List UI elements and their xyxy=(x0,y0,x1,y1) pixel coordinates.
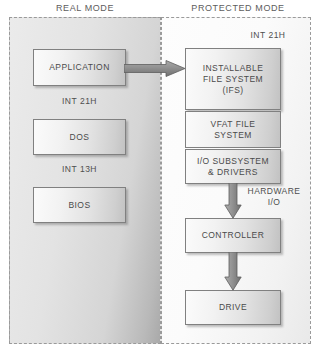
box-bios-label: BIOS xyxy=(68,200,90,211)
diagram-canvas: REAL MODE PROTECTED MODE APPLICATION INT… xyxy=(0,0,317,348)
caption-int-21h-protected: INT 21H xyxy=(232,30,304,40)
caption-int-21h-real: INT 21H xyxy=(33,96,126,106)
caption-hardware-io-line1: HARDWARE xyxy=(240,186,308,197)
box-controller[interactable]: CONTROLLER xyxy=(185,218,281,253)
box-ifs-label-line1: INSTALLABLE xyxy=(203,63,264,74)
box-vfat-file-system[interactable]: VFAT FILE SYSTEM xyxy=(185,111,281,148)
box-controller-label: CONTROLLER xyxy=(202,230,265,241)
caption-hardware-io: HARDWARE I/O xyxy=(240,186,308,208)
box-drive-label: DRIVE xyxy=(219,302,247,313)
caption-hardware-io-line2: I/O xyxy=(240,197,308,208)
box-dos-label: DOS xyxy=(70,132,90,143)
box-drive[interactable]: DRIVE xyxy=(185,290,281,325)
arrow-down-icon xyxy=(224,183,242,219)
arrow-down-icon xyxy=(224,252,242,291)
box-application-label: APPLICATION xyxy=(49,62,110,73)
box-io-subsystem-label-line2: & DRIVERS xyxy=(208,167,258,178)
box-ifs-label-line3: (IFS) xyxy=(222,85,243,96)
box-dos[interactable]: DOS xyxy=(33,119,126,155)
box-vfat-label-line1: VFAT FILE xyxy=(211,119,256,130)
box-vfat-label-line2: SYSTEM xyxy=(214,130,252,141)
real-mode-title: REAL MODE xyxy=(10,3,160,13)
box-bios[interactable]: BIOS xyxy=(33,187,126,223)
protected-mode-title: PROTECTED MODE xyxy=(162,3,314,13)
arrow-right-icon xyxy=(124,60,186,77)
box-ifs-label-line2: FILE SYSTEM xyxy=(203,74,263,85)
caption-int-13h-real: INT 13H xyxy=(33,164,126,174)
box-installable-file-system[interactable]: INSTALLABLE FILE SYSTEM (IFS) xyxy=(185,48,281,110)
box-application[interactable]: APPLICATION xyxy=(33,49,126,86)
box-io-subsystem-and-drivers[interactable]: I/O SUBSYSTEM & DRIVERS xyxy=(185,149,281,184)
box-io-subsystem-label-line1: I/O SUBSYSTEM xyxy=(197,156,269,167)
